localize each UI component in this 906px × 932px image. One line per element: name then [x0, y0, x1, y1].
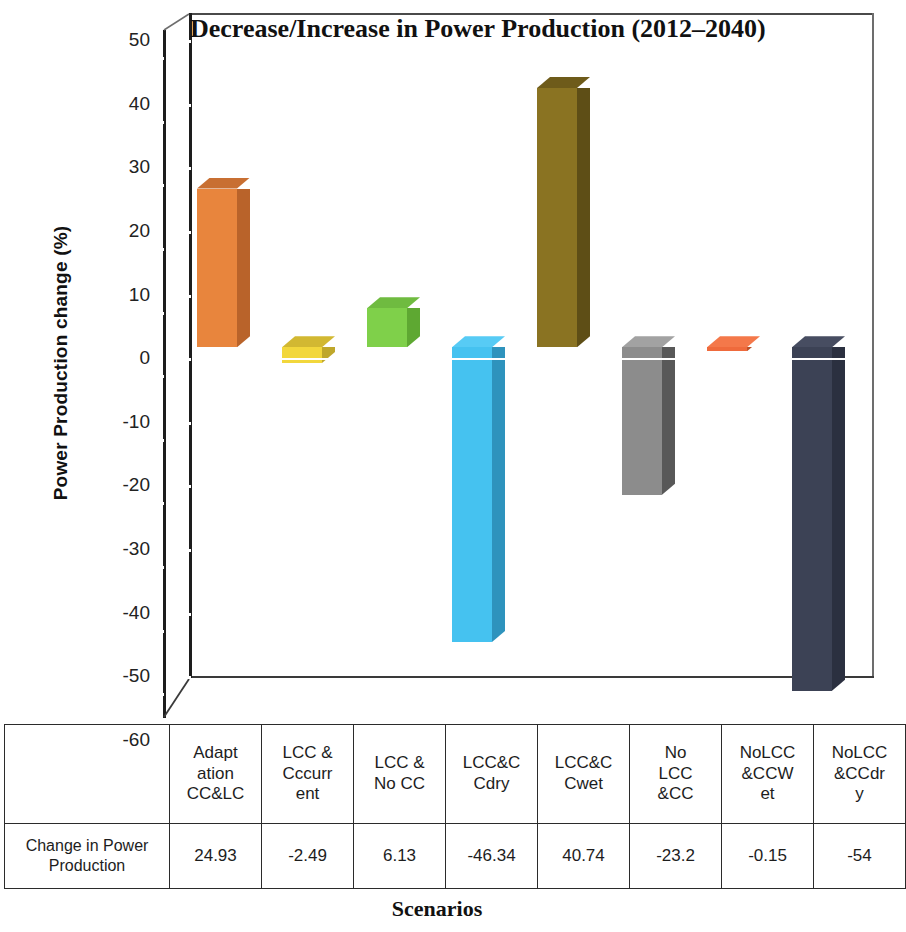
y-tick-label: -10	[88, 412, 150, 431]
y-tick-label: 30	[88, 157, 150, 176]
axis-tick-gap	[150, 312, 164, 315]
bar-5[interactable]	[622, 347, 662, 495]
plot-top-diagonal	[163, 13, 190, 31]
bar-top-face	[622, 336, 675, 347]
bar-side-face	[577, 88, 590, 347]
axis-tick-gap	[150, 502, 164, 505]
axis-tick-gap	[177, 358, 191, 361]
y-axis-tick-labels: 50403020100-10-20-30-40-50-60	[88, 0, 150, 760]
bar-top-face	[537, 77, 590, 88]
axis-tick-gap	[150, 630, 164, 633]
bar-top-face	[282, 336, 335, 347]
bar-0[interactable]	[197, 189, 237, 348]
bar-top-face	[367, 297, 420, 308]
axis-tick-gap	[150, 439, 164, 442]
axis-tick-gap	[177, 485, 191, 488]
bar-side-face	[322, 347, 335, 363]
bar-front-face	[792, 347, 832, 691]
table-value-cell: -23.2	[630, 824, 722, 889]
bar-6[interactable]	[707, 347, 747, 351]
table-value-cell: -0.15	[722, 824, 814, 889]
y-tick-label: 50	[88, 30, 150, 49]
chart-title: Decrease/Increase in Power Production (2…	[190, 14, 880, 44]
axis-tick-gap	[177, 422, 191, 425]
bar-zero-line	[622, 358, 675, 360]
plot-floor-edge	[190, 676, 874, 678]
bar-side-face	[832, 347, 845, 691]
table-value-cell: -2.49	[262, 824, 354, 889]
axis-tick-gap	[150, 757, 164, 760]
axis-tick-gap	[150, 184, 164, 187]
axis-tick-gap	[150, 57, 164, 60]
table-value-cell: 24.93	[170, 824, 262, 889]
y-tick-label: 0	[88, 348, 150, 367]
axis-tick-gap	[150, 375, 164, 378]
table-value-cell: 40.74	[538, 824, 630, 889]
bar-1[interactable]	[282, 347, 322, 363]
plot-right-edge	[872, 13, 874, 677]
table-value-cell: 6.13	[354, 824, 446, 889]
axis-tick-gap	[177, 549, 191, 552]
bar-top-face	[197, 178, 250, 189]
axis-tick-gap	[177, 40, 191, 43]
bar-side-face	[407, 308, 420, 347]
axis-tick-gap	[150, 121, 164, 124]
plot-front-axis	[163, 30, 166, 718]
axis-tick-gap	[177, 167, 191, 170]
table-row-header: Change in Power Production	[5, 824, 170, 889]
x-axis-title: Scenarios	[0, 896, 874, 922]
axis-tick-gap	[177, 295, 191, 298]
plot-back-axis	[189, 13, 192, 678]
y-axis-title: Power Production change (%)	[50, 198, 72, 528]
table-corner-cell	[5, 725, 170, 824]
data-table: AdaptationCC&LCLCC &CccurrentLCC &No CCL…	[4, 724, 906, 889]
table-category-cell: NoLCC&CCWet	[722, 725, 814, 824]
bar-zero-line	[452, 358, 505, 360]
bar-zero-line	[282, 358, 335, 360]
bar-zero-line	[792, 358, 845, 360]
y-tick-label: -30	[88, 539, 150, 558]
bar-7[interactable]	[792, 347, 832, 691]
table-category-cell: LCC&CCwet	[538, 725, 630, 824]
axis-tick-gap	[177, 231, 191, 234]
bar-front-face	[622, 347, 662, 495]
bar-side-face	[747, 347, 760, 351]
axis-tick-gap	[177, 740, 191, 743]
bar-front-face	[197, 189, 237, 348]
table-category-cell: NoLCC&CCdry	[814, 725, 906, 824]
axis-tick-gap	[150, 248, 164, 251]
bar-top-face	[452, 336, 505, 347]
bar-front-face	[537, 88, 577, 347]
bar-zero-line	[707, 358, 760, 360]
table-value-cell: -54	[814, 824, 906, 889]
table-category-cell: LCC &Cccurrent	[262, 725, 354, 824]
y-tick-label: 20	[88, 221, 150, 240]
y-tick-label: -40	[88, 603, 150, 622]
plot-area	[150, 8, 874, 720]
bar-top-face	[707, 336, 760, 347]
axis-tick-gap	[177, 676, 191, 679]
plot-bottom-diagonal	[163, 678, 190, 718]
y-tick-label: -20	[88, 475, 150, 494]
table-category-cell: LCC&CCdry	[446, 725, 538, 824]
table-category-cell: NoLCC&CC	[630, 725, 722, 824]
bar-2[interactable]	[367, 308, 407, 347]
table-category-cell: LCC &No CC	[354, 725, 446, 824]
bar-3[interactable]	[452, 347, 492, 642]
bar-side-face	[237, 189, 250, 348]
y-tick-label: -50	[88, 666, 150, 685]
axis-tick-gap	[177, 613, 191, 616]
bar-front-face	[282, 347, 322, 363]
bar-front-face	[452, 347, 492, 642]
bar-front-face	[367, 308, 407, 347]
table-value-row: Change in Power Production 24.93-2.496.1…	[5, 824, 906, 889]
table-value-cell: -46.34	[446, 824, 538, 889]
bar-side-face	[492, 347, 505, 642]
bar-4[interactable]	[537, 88, 577, 347]
axis-tick-gap	[150, 693, 164, 696]
y-tick-label: 40	[88, 94, 150, 113]
y-tick-label: 10	[88, 285, 150, 304]
bar-top-face	[792, 336, 845, 347]
axis-tick-gap	[150, 566, 164, 569]
